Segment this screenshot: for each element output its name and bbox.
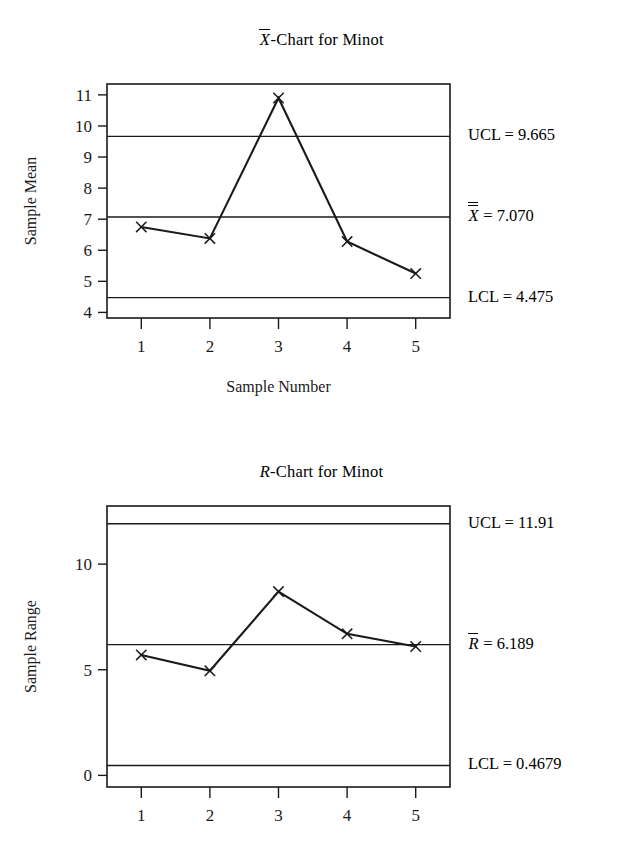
r-center-number: 6.189 — [497, 634, 534, 653]
y-axis-tick-label: 8 — [84, 179, 93, 198]
data-point-marker — [273, 93, 283, 103]
r-center-label: R = 6.189 — [468, 634, 534, 654]
r-chart-block: R-Chart for Minot 051012345Sample Range … — [0, 424, 643, 848]
plot-frame — [107, 506, 450, 787]
plot-frame — [107, 84, 450, 318]
data-point-marker — [273, 586, 283, 596]
data-point-marker — [342, 236, 352, 246]
x-axis-tick-label: 5 — [411, 337, 420, 356]
xbar-title-suffix: -Chart for Minot — [271, 30, 384, 49]
y-axis-tick-label: 5 — [84, 661, 93, 680]
y-axis-title: Sample Mean — [22, 157, 40, 245]
xbar-lcl-label: LCL = 4.475 — [468, 287, 553, 307]
y-axis-tick-label: 10 — [75, 555, 92, 574]
xbar-center-symbol: X — [468, 206, 479, 226]
xbar-chart-block: X-Chart for Minot 456789101112345Sample … — [0, 0, 643, 424]
r-lcl-label: LCL = 0.4679 — [468, 754, 561, 774]
xbar-lcl-text: LCL = 4.475 — [468, 287, 553, 306]
x-axis-tick-label: 3 — [274, 337, 283, 356]
xbar-chart-title: X-Chart for Minot — [0, 30, 643, 50]
x-axis-title: Sample Number — [226, 378, 331, 396]
data-series-line — [141, 592, 415, 671]
y-axis-title: Sample Range — [22, 600, 40, 693]
x-axis-tick-label: 1 — [137, 806, 146, 825]
r-ucl-text: UCL = 11.91 — [468, 513, 554, 532]
xbar-center-label: X = 7.070 — [468, 206, 534, 226]
r-center-eq: = — [479, 634, 497, 653]
y-axis-tick-label: 9 — [84, 148, 93, 167]
xbar-center-number: 7.070 — [497, 206, 534, 225]
y-axis-tick-label: 0 — [84, 766, 93, 785]
x-axis-tick-label: 4 — [343, 337, 352, 356]
xbar-ucl-label: UCL = 9.665 — [468, 125, 555, 145]
r-lcl-text: LCL = 0.4679 — [468, 754, 561, 773]
x-axis-tick-label: 4 — [343, 806, 352, 825]
data-point-marker — [411, 268, 421, 278]
x-axis-tick-label: 1 — [137, 337, 146, 356]
x-axis-tick-label: 2 — [206, 337, 215, 356]
xbar-title-symbol: X — [259, 30, 270, 50]
y-axis-tick-label: 11 — [76, 86, 92, 105]
y-axis-tick-label: 5 — [84, 272, 93, 291]
r-title-suffix: -Chart for Minot — [270, 462, 383, 481]
y-axis-tick-label: 4 — [84, 303, 93, 322]
y-axis-tick-label: 7 — [84, 210, 93, 229]
x-axis-tick-label: 3 — [274, 806, 283, 825]
xbar-chart-plot: 456789101112345Sample MeanSample Number — [0, 0, 643, 400]
y-axis-tick-label: 6 — [84, 241, 93, 260]
r-ucl-label: UCL = 11.91 — [468, 513, 554, 533]
r-title-symbol: R — [260, 462, 270, 481]
x-axis-tick-label: 2 — [206, 806, 215, 825]
y-axis-tick-label: 10 — [75, 117, 92, 136]
x-axis-tick-label: 5 — [411, 806, 420, 825]
r-chart-title: R-Chart for Minot — [0, 462, 643, 482]
r-chart-plot: 051012345Sample Range — [0, 424, 643, 848]
r-center-symbol: R — [468, 634, 479, 654]
data-series-line — [141, 98, 415, 274]
xbar-center-eq: = — [479, 206, 497, 225]
xbar-ucl-text: UCL = 9.665 — [468, 125, 555, 144]
